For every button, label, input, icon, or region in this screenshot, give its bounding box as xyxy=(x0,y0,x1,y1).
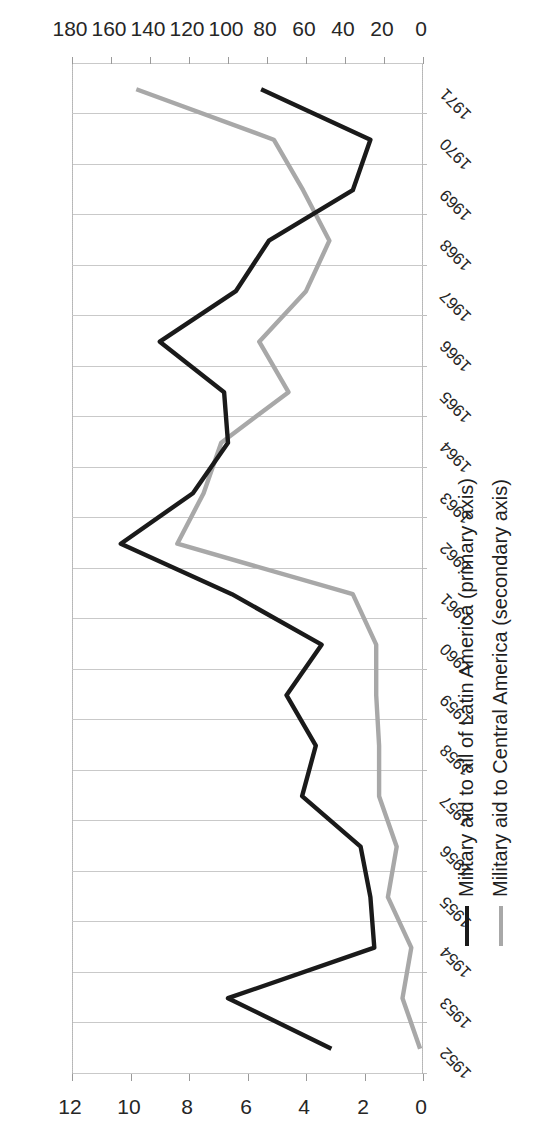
category-tick xyxy=(423,467,427,468)
category-tick xyxy=(423,821,427,822)
axis-tick xyxy=(306,57,307,64)
axis-tick xyxy=(248,1074,249,1081)
chart-legend: Military aid to all of Latin America (pr… xyxy=(455,478,523,946)
line-military-aid-latin-america xyxy=(121,89,374,1049)
axis-tick-label: 180 xyxy=(58,6,82,52)
axis-tick xyxy=(267,57,268,64)
axis-tick xyxy=(72,1074,73,1081)
category-tick xyxy=(423,871,427,872)
axis-tick-label: 120 xyxy=(175,6,199,52)
series-lines xyxy=(72,64,423,1074)
axis-tick-label: 20 xyxy=(370,6,394,52)
axis-tick xyxy=(365,1074,366,1081)
category-tick xyxy=(423,922,427,923)
legend-line-swatch-icon xyxy=(465,906,469,946)
axis-tick-label: 0 xyxy=(409,1084,433,1130)
axis-tick xyxy=(423,1074,424,1081)
axis-tick xyxy=(384,57,385,64)
axis-tick xyxy=(345,57,346,64)
axis-tick-label: 10 xyxy=(117,1084,141,1130)
axis-line xyxy=(72,64,73,1074)
axis-tick-label: 0 xyxy=(409,6,433,52)
axis-tick xyxy=(150,57,151,64)
axis-tick xyxy=(131,1074,132,1081)
axis-tick xyxy=(189,57,190,64)
axis-tick-label: 6 xyxy=(234,1084,258,1130)
axis-tick-label: 8 xyxy=(175,1084,199,1130)
category-tick xyxy=(423,770,427,771)
axis-line xyxy=(422,64,423,1074)
category-tick xyxy=(423,265,427,266)
axis-tick-label: 12 xyxy=(58,1084,82,1130)
axis-tick-label: 2 xyxy=(351,1084,375,1130)
category-tick xyxy=(423,417,427,418)
category-tick xyxy=(423,972,427,973)
legend-item-central-america: Military aid to Central America (seconda… xyxy=(489,478,512,946)
chart-figure: 024681012 020406080100120140160180 19521… xyxy=(0,0,534,1136)
category-tick xyxy=(423,1073,427,1074)
axis-tick-label: 40 xyxy=(331,6,355,52)
plot-area xyxy=(72,64,423,1074)
legend-item-label: Military aid to Central America (seconda… xyxy=(489,479,512,897)
category-tick xyxy=(423,518,427,519)
category-tick xyxy=(423,164,427,165)
axis-tick xyxy=(228,57,229,64)
category-tick xyxy=(423,619,427,620)
category-tick xyxy=(423,114,427,115)
category-tick xyxy=(423,720,427,721)
category-tick xyxy=(423,669,427,670)
axis-tick-label: 80 xyxy=(253,6,277,52)
category-tick xyxy=(423,215,427,216)
axis-tick xyxy=(111,57,112,64)
legend-item-latin-america: Military aid to all of Latin America (pr… xyxy=(455,478,478,946)
axis-tick-label: 140 xyxy=(136,6,160,52)
category-tick xyxy=(423,568,427,569)
category-tick xyxy=(423,1023,427,1024)
axis-tick-label: 4 xyxy=(292,1084,316,1130)
axis-tick-label: 60 xyxy=(292,6,316,52)
legend-item-label: Military aid to all of Latin America (pr… xyxy=(455,478,478,897)
category-tick xyxy=(423,366,427,367)
category-tick xyxy=(423,316,427,317)
axis-tick xyxy=(306,1074,307,1081)
axis-tick xyxy=(189,1074,190,1081)
rotated-chart-wrapper: 024681012 020406080100120140160180 19521… xyxy=(0,0,534,1136)
axis-tick-label: 100 xyxy=(214,6,238,52)
axis-tick xyxy=(423,57,424,64)
axis-tick xyxy=(72,57,73,64)
axis-tick-label: 160 xyxy=(97,6,121,52)
legend-line-swatch-icon xyxy=(499,906,503,946)
